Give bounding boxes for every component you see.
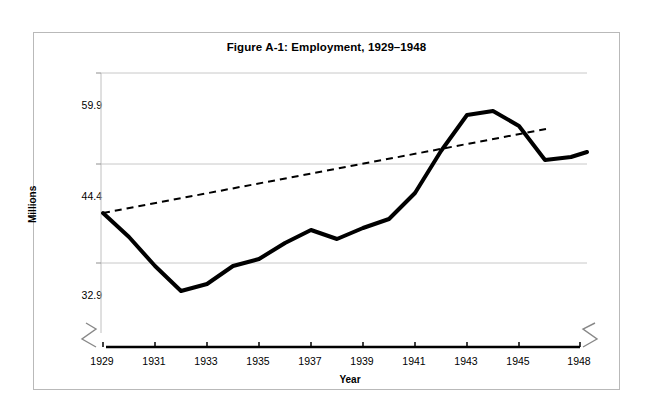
y-tick-marks xyxy=(96,73,101,263)
axis-break-left-icon xyxy=(82,323,96,347)
x-tick-label-0: 1929 xyxy=(79,355,125,367)
x-tick-label-9: 1948 xyxy=(556,355,602,367)
x-tick-label-1: 1931 xyxy=(131,355,177,367)
x-tick-label-7: 1943 xyxy=(443,355,489,367)
plot-area xyxy=(34,33,621,391)
x-tick-label-5: 1939 xyxy=(339,355,385,367)
figure-frame: Figure A-1: Employment, 1929–1948 59.9 4… xyxy=(33,32,620,390)
x-axis-title: Year xyxy=(100,374,600,385)
employment-line xyxy=(103,111,587,291)
x-axis-tick-labels: 1929 1931 1933 1935 1937 1939 1941 1943 … xyxy=(0,355,650,371)
axis-break-right-icon xyxy=(583,323,597,347)
trend-line xyxy=(103,129,546,213)
x-tick-label-6: 1941 xyxy=(391,355,437,367)
x-tick-label-3: 1935 xyxy=(235,355,281,367)
x-tick-label-4: 1937 xyxy=(287,355,333,367)
x-tick-label-8: 1945 xyxy=(495,355,541,367)
x-tick-label-2: 1933 xyxy=(183,355,229,367)
